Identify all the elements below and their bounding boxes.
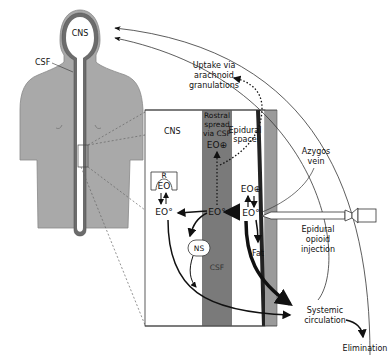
uptake-line3: granulations bbox=[189, 81, 239, 90]
injection-line3: injection bbox=[301, 245, 335, 254]
syringe-icon bbox=[262, 208, 376, 223]
epidural-space-line2: space bbox=[233, 135, 257, 144]
rostral-spread-line3: via CSF bbox=[203, 129, 231, 138]
systemic-line1: Systemic bbox=[307, 306, 343, 315]
eo-csf-rostral: EO⊕ bbox=[207, 140, 227, 150]
elimination-label: Elimination bbox=[343, 344, 388, 353]
fat-label: Fat bbox=[252, 249, 264, 258]
arrow-to-elimination bbox=[346, 320, 363, 337]
eo-epidural: EO° bbox=[242, 208, 259, 218]
eo-csf: EO° bbox=[208, 207, 225, 217]
eo-receptor-bound: EO bbox=[158, 181, 171, 191]
rostral-spread-line2: spread bbox=[204, 120, 230, 129]
systemic-line2: circulation bbox=[304, 316, 346, 325]
injection-line1: Epidural bbox=[302, 225, 335, 234]
epidural-opioid-diagram: CNS CSF CNS Rostral spread via CSF EO⊕ E… bbox=[0, 0, 390, 355]
inset-csf-label: CSF bbox=[210, 263, 224, 272]
injection-line2: opioid bbox=[306, 235, 330, 244]
rostral-spread-line1: Rostral bbox=[204, 111, 230, 120]
csf-label: CSF bbox=[35, 58, 51, 67]
receptor-label: R bbox=[161, 171, 166, 180]
inset-cns-label: CNS bbox=[164, 127, 181, 136]
azygos-line1: Azygos bbox=[302, 147, 331, 156]
azygos-line2: vein bbox=[308, 157, 325, 166]
cns-head-label: CNS bbox=[72, 29, 89, 38]
eo-epidural-ionized: EO⊕ bbox=[241, 184, 261, 194]
uptake-line1: Uptake via bbox=[193, 61, 236, 70]
epidural-space-line1: Epidural bbox=[229, 126, 262, 135]
ns-label: NS bbox=[194, 244, 205, 253]
eo-cns: EO° bbox=[155, 207, 172, 217]
